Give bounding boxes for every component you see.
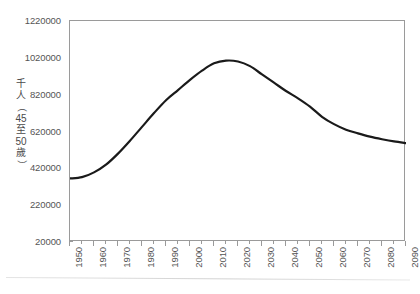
x-axis-tick-label: 1950 (73, 247, 84, 268)
x-axis-tick-minor (297, 241, 298, 244)
x-axis-tick-major (69, 241, 70, 246)
x-axis-tick-major (405, 241, 406, 246)
y-axis-tick-label: 820000 (30, 88, 61, 99)
x-axis-tick-minor (249, 241, 250, 244)
y-axis-title-char: （ (15, 99, 27, 115)
x-axis-tick-label: 2080 (385, 247, 396, 268)
x-axis-tick-label: 2090 (409, 247, 420, 268)
x-axis-tick-major (285, 241, 286, 246)
x-axis-tick-major (357, 241, 358, 246)
plot-area (69, 20, 405, 241)
y-axis-title: 千人（45至50歲） (13, 78, 29, 170)
x-axis-tick-label: 2070 (361, 247, 372, 268)
x-axis-tick-major (333, 241, 334, 246)
y-axis-tick-label: 420000 (30, 162, 61, 173)
bottom-separator-rule (6, 277, 410, 280)
x-axis-tick-major (141, 241, 142, 246)
x-axis-tick-minor (81, 241, 82, 244)
x-axis-tick-major (213, 241, 214, 246)
x-axis-tick-label: 2010 (217, 247, 228, 268)
x-axis-tick-label: 2030 (265, 247, 276, 268)
x-axis-tick-major (165, 241, 166, 246)
y-axis-title-char: 50 (13, 136, 29, 148)
x-axis-tick-label: 2020 (241, 247, 252, 268)
x-axis-tick-minor (321, 241, 322, 244)
x-axis-tick-major (117, 241, 118, 246)
x-axis-tick-major (309, 241, 310, 246)
y-axis-title-char: 千 (13, 78, 29, 90)
x-axis-tick-label: 1980 (145, 247, 156, 268)
x-axis-tick-label: 2060 (337, 247, 348, 268)
line-series-svg (70, 21, 406, 242)
x-axis-tick-label: 1970 (121, 247, 132, 268)
y-axis-tick-label: 220000 (30, 199, 61, 210)
x-axis-tick-label: 2000 (193, 247, 204, 268)
x-axis-tick-minor (345, 241, 346, 244)
x-axis-tick-minor (369, 241, 370, 244)
x-axis-tick-major (381, 241, 382, 246)
x-axis-tick-label: 1990 (169, 247, 180, 268)
x-axis-tick-minor (393, 241, 394, 244)
line-series-path (70, 60, 406, 178)
y-axis-tick-label: 620000 (30, 125, 61, 136)
y-axis-tick-label: 20000 (35, 236, 61, 247)
x-axis-tick-label: 2040 (289, 247, 300, 268)
x-axis-tick-minor (201, 241, 202, 244)
y-axis-tick-label: 1220000 (25, 15, 61, 26)
x-axis-tick-major (261, 241, 262, 246)
x-axis-tick-minor (225, 241, 226, 244)
x-axis-tick-minor (129, 241, 130, 244)
y-axis-title-char: ） (15, 156, 27, 172)
x-axis-tick-label: 1960 (97, 247, 108, 268)
x-axis-tick-label: 2050 (313, 247, 324, 268)
y-axis-labels: 2000022000042000062000082000010200001220… (0, 0, 66, 294)
x-axis-tick-major (237, 241, 238, 246)
x-axis-tick-minor (273, 241, 274, 244)
x-axis-tick-major (93, 241, 94, 246)
x-axis-tick-minor (105, 241, 106, 244)
y-axis-title-char: 至 (13, 124, 29, 136)
y-axis-tick-label: 1020000 (25, 51, 61, 62)
x-axis-tick-minor (177, 241, 178, 244)
x-axis-tick-minor (153, 241, 154, 244)
x-axis-tick-major (189, 241, 190, 246)
